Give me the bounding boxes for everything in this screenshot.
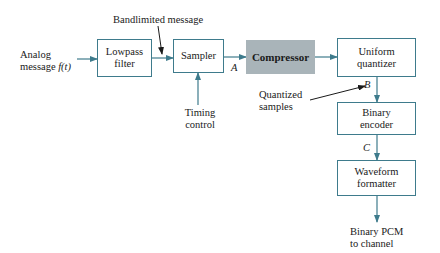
sampler-label: Sampler bbox=[181, 50, 216, 62]
formatter-line1: Waveform bbox=[354, 166, 398, 178]
pointer-bandlimited bbox=[158, 26, 162, 54]
compressor-block: Compressor bbox=[246, 40, 315, 74]
quantizer-line1: Uniform bbox=[357, 46, 396, 58]
uniform-quantizer-block: Uniform quantizer bbox=[337, 38, 416, 77]
timing-control-label: Timing control bbox=[183, 107, 217, 131]
quantized-line2: samples bbox=[259, 101, 302, 113]
output-line1: Binary PCM bbox=[350, 226, 403, 238]
compressor-label: Compressor bbox=[252, 51, 309, 63]
output-label: Binary PCM to channel bbox=[350, 226, 403, 250]
quantized-samples-label: Quantized samples bbox=[259, 89, 302, 113]
input-symbol: f(t) bbox=[58, 61, 71, 72]
lowpass-line1: Lowpass bbox=[106, 46, 143, 58]
point-c-label: C bbox=[363, 142, 370, 154]
encoder-line1: Binary bbox=[360, 107, 393, 119]
lowpass-line2: filter bbox=[106, 58, 143, 70]
formatter-line2: formatter bbox=[354, 178, 398, 190]
bandlimited-message-label: Bandlimited message bbox=[113, 14, 203, 26]
timing-line2: control bbox=[183, 119, 217, 131]
encoder-line2: encoder bbox=[360, 119, 393, 131]
quantizer-line2: quantizer bbox=[357, 58, 396, 70]
input-label: Analog message f(t) bbox=[20, 49, 71, 73]
pointer-quantized-samples bbox=[310, 86, 365, 100]
input-label-line1: Analog bbox=[20, 49, 71, 61]
lowpass-filter-block: Lowpass filter bbox=[97, 39, 152, 77]
binary-encoder-block: Binary encoder bbox=[337, 102, 416, 135]
point-b-label: B bbox=[364, 79, 370, 91]
timing-line1: Timing bbox=[183, 107, 217, 119]
input-label-text: message bbox=[20, 61, 58, 72]
sampler-block: Sampler bbox=[173, 39, 224, 73]
input-label-line2: message f(t) bbox=[20, 61, 71, 73]
output-line2: to channel bbox=[350, 238, 403, 250]
point-a-label: A bbox=[231, 62, 237, 74]
waveform-formatter-block: Waveform formatter bbox=[337, 160, 416, 196]
quantized-line1: Quantized bbox=[259, 89, 302, 101]
